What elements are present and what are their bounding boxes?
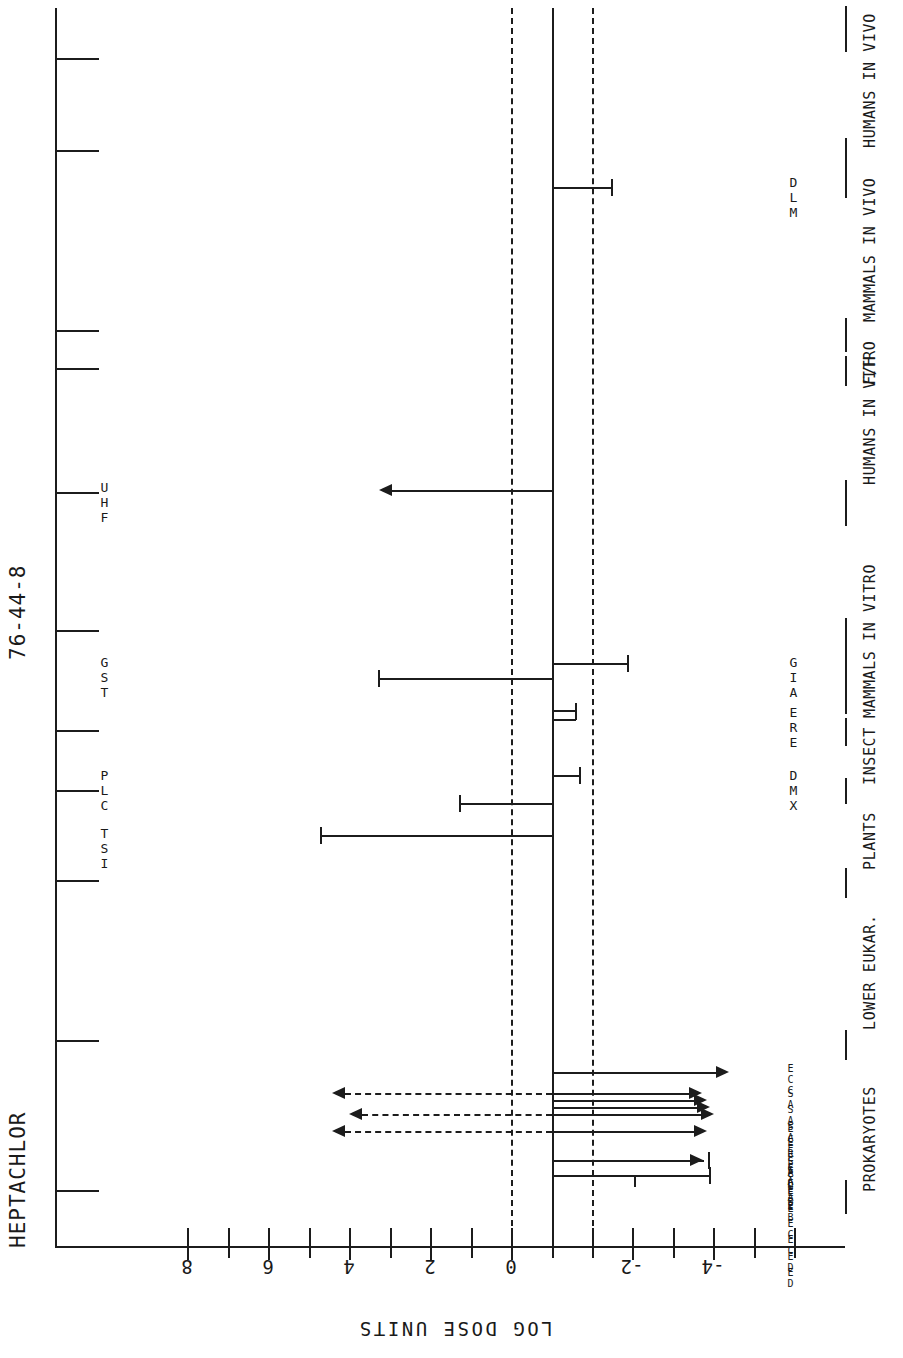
bar-cap bbox=[579, 767, 581, 784]
spine-tick bbox=[55, 330, 99, 332]
cat-sep bbox=[845, 6, 847, 52]
assay-code-gia: GIA bbox=[787, 655, 799, 700]
bar-cap bbox=[378, 670, 380, 687]
assay-code-prok-6: ED EB EC ED bbox=[786, 1168, 795, 1289]
spine-tick bbox=[55, 58, 99, 60]
bar-cap bbox=[611, 179, 613, 196]
x-ticklabel: 2 bbox=[410, 1256, 450, 1278]
data-bar bbox=[392, 490, 552, 492]
bar-arrow-right bbox=[690, 1154, 703, 1166]
data-bar bbox=[378, 678, 552, 680]
spine-tick bbox=[55, 790, 99, 792]
spine-tick bbox=[55, 492, 99, 494]
data-bar bbox=[320, 835, 552, 837]
data-bar bbox=[552, 719, 576, 721]
data-bar bbox=[552, 1175, 710, 1177]
bar-arrow-right bbox=[701, 1108, 714, 1120]
data-bar bbox=[552, 1072, 717, 1074]
bar-cap bbox=[709, 1167, 711, 1184]
data-bar bbox=[552, 775, 580, 777]
spine-tick bbox=[55, 630, 99, 632]
data-bar bbox=[459, 803, 552, 805]
x-tick-1 bbox=[471, 1228, 473, 1258]
x-ticklabel: 8 bbox=[167, 1256, 207, 1278]
cat-label-lower-eukar: LOWER EUKAR. bbox=[862, 914, 878, 1030]
cat-label-humans-in-vitro: HUMANS IN VITRO bbox=[862, 341, 878, 485]
cat-sep bbox=[845, 480, 847, 526]
spine-tick bbox=[55, 1040, 99, 1042]
cat-sep bbox=[845, 1180, 847, 1214]
data-bar bbox=[552, 1131, 695, 1133]
data-bar-dashed bbox=[362, 1114, 552, 1116]
x-ticklabel: 6 bbox=[248, 1256, 288, 1278]
x-tick-3 bbox=[390, 1228, 392, 1258]
cat-sep bbox=[845, 318, 847, 352]
assay-code-uhf: UHF bbox=[98, 480, 110, 525]
reference-line-plus1 bbox=[511, 8, 513, 1246]
data-bar bbox=[552, 1107, 698, 1109]
spine-tick bbox=[55, 1190, 99, 1192]
cat-label-prokaryotes: PROKARYOTES bbox=[862, 1086, 878, 1192]
cat-label-insect: INSECT bbox=[862, 727, 878, 785]
cat-label-humans-in-vivo: HUMANS IN VIVO bbox=[862, 13, 878, 148]
bar-arrow-right bbox=[694, 1125, 707, 1137]
reference-line-minus1 bbox=[592, 8, 594, 1246]
page-title: HEPTACHLOR bbox=[6, 1112, 30, 1248]
cat-label-mammals-in-vitro: MAMMALS IN VITRO bbox=[862, 564, 878, 718]
x-tick-7 bbox=[228, 1228, 230, 1258]
data-bar bbox=[552, 1100, 695, 1102]
data-bar bbox=[552, 187, 612, 189]
bar-cap bbox=[459, 795, 461, 812]
bar-arrow-left bbox=[332, 1087, 345, 1099]
spine-tick bbox=[55, 368, 99, 370]
axis-label: LOG DOSE UNITS bbox=[305, 1318, 605, 1340]
assay-code-tsi: TSI bbox=[98, 826, 110, 871]
assay-code-plc: PLC bbox=[98, 768, 110, 813]
x-tick-m3 bbox=[673, 1228, 675, 1258]
bar-cap bbox=[320, 827, 322, 844]
bar-cap bbox=[552, 711, 554, 728]
reference-line-zero bbox=[552, 8, 554, 1246]
bar-arrow-right bbox=[716, 1066, 729, 1078]
data-bar bbox=[552, 1093, 690, 1095]
bar-cap bbox=[627, 655, 629, 672]
bar-cap bbox=[575, 703, 577, 720]
data-bar-dashed bbox=[345, 1131, 552, 1133]
bar-arrow-left bbox=[349, 1108, 362, 1120]
spine-tick bbox=[55, 730, 99, 732]
data-bar bbox=[552, 1114, 702, 1116]
cat-sep bbox=[845, 138, 847, 198]
cat-sep bbox=[845, 356, 847, 386]
data-bar bbox=[552, 663, 628, 665]
cat-sep bbox=[845, 868, 847, 898]
cat-sep bbox=[845, 1030, 847, 1060]
data-bar-dashed bbox=[345, 1093, 552, 1095]
x-ticklabel: 0 bbox=[491, 1256, 531, 1278]
cat-sep bbox=[845, 718, 847, 746]
x-tick-m5 bbox=[754, 1228, 756, 1258]
cas-number: 76-44-8 bbox=[6, 564, 30, 660]
x-ticklabel: -4 bbox=[693, 1256, 733, 1278]
assay-code-dmx: DMX bbox=[787, 768, 799, 813]
assay-code-dlm: DLM bbox=[787, 175, 799, 220]
cat-label-mammals-in-vivo: MAMMALS IN VIVO bbox=[862, 178, 878, 322]
x-ticklabel: 4 bbox=[329, 1256, 369, 1278]
spine-tick bbox=[55, 880, 99, 882]
cat-sep bbox=[845, 778, 847, 804]
x-axis-line bbox=[55, 1246, 845, 1248]
left-axis-spine bbox=[55, 8, 57, 1246]
cat-label-plants: PLANTS bbox=[862, 812, 878, 870]
x-ticklabel: -2 bbox=[612, 1256, 652, 1278]
data-bar bbox=[552, 1160, 704, 1162]
bar-cap-inner bbox=[634, 1175, 636, 1187]
bar-arrow-left bbox=[379, 484, 392, 496]
assay-code-gst: GST bbox=[98, 655, 110, 700]
bar-arrow-left bbox=[332, 1125, 345, 1137]
spine-tick bbox=[55, 150, 99, 152]
chart-root: HEPTACHLOR 76-44-8 LOG DOSE UNITS 8 6 4 … bbox=[0, 0, 903, 1358]
cat-label-line1: HUMANS IN VIVO bbox=[861, 13, 879, 148]
data-bar bbox=[552, 710, 576, 712]
assay-code-ere: ERE bbox=[787, 705, 799, 750]
cat-sep bbox=[845, 618, 847, 714]
x-tick-5 bbox=[309, 1228, 311, 1258]
